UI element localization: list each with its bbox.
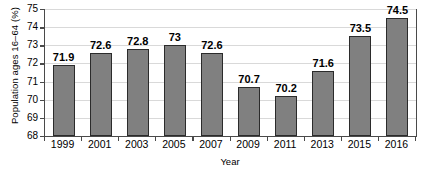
x-tick-label: 2009 [236, 138, 259, 150]
bar-group: 70.7 [231, 9, 268, 136]
bar[interactable] [127, 49, 149, 136]
x-tick-label: 2003 [125, 138, 148, 150]
y-tick-label: 71 [14, 76, 38, 87]
y-tick-mark [40, 100, 44, 101]
x-tick-label: 2016 [385, 138, 408, 150]
x-tick-label: 2013 [311, 138, 334, 150]
x-tick-mark [155, 136, 156, 141]
bar-group: 72.8 [119, 9, 156, 136]
x-tick-mark [81, 136, 82, 141]
bar[interactable] [53, 65, 75, 136]
bar-group: 71.6 [305, 9, 342, 136]
y-tick-label: 68 [14, 130, 38, 141]
bar[interactable] [312, 71, 334, 136]
plot-area: 71.972.672.87372.670.770.271.673.574.5 [44, 9, 417, 137]
bar-value-label: 72.6 [201, 39, 222, 51]
y-tick-label: 70 [14, 94, 38, 105]
bar[interactable] [238, 87, 260, 136]
bar[interactable] [386, 18, 408, 136]
bar-group: 73 [156, 9, 193, 136]
x-tick-label: 2015 [348, 138, 371, 150]
x-tick-mark [118, 136, 119, 141]
bar-value-label: 73.5 [350, 22, 371, 34]
x-tick-mark [415, 136, 416, 141]
bar-value-label: 71.9 [53, 51, 74, 63]
bar[interactable] [201, 53, 223, 136]
y-tick-mark [40, 118, 44, 119]
y-tick-label: 72 [14, 57, 38, 68]
bar-chart: Population ages 16–64 (%) 71.972.672.873… [0, 0, 424, 173]
x-tick-mark [304, 136, 305, 141]
bar-series: 71.972.672.87372.670.770.271.673.574.5 [45, 9, 416, 136]
bar-value-label: 72.8 [127, 35, 148, 47]
bar-group: 70.2 [268, 9, 305, 136]
y-tick-mark [40, 9, 44, 10]
x-tick-mark [341, 136, 342, 141]
bar[interactable] [275, 96, 297, 136]
y-tick-label: 69 [14, 112, 38, 123]
bar[interactable] [164, 45, 186, 136]
bar-value-label: 72.6 [90, 39, 111, 51]
y-tick-label: 75 [14, 3, 38, 14]
bar-value-label: 74.5 [387, 4, 408, 16]
bar[interactable] [90, 53, 112, 136]
y-tick-mark [40, 82, 44, 83]
x-tick-mark [267, 136, 268, 141]
bar-group: 72.6 [82, 9, 119, 136]
bar-group: 72.6 [193, 9, 230, 136]
y-tick-mark [40, 63, 44, 64]
bar-value-label: 70.2 [275, 82, 296, 94]
bar[interactable] [349, 36, 371, 136]
y-tick-mark [40, 27, 44, 28]
x-tick-mark [230, 136, 231, 141]
x-tick-mark [44, 136, 45, 141]
y-tick-label: 73 [14, 39, 38, 50]
x-tick-label: 2007 [199, 138, 222, 150]
y-tick-label: 74 [14, 21, 38, 32]
x-tick-label: 2005 [162, 138, 185, 150]
x-tick-label: 2011 [274, 138, 297, 150]
x-tick-label: 2001 [88, 138, 111, 150]
x-tick-mark [378, 136, 379, 141]
x-axis-title: Year [44, 156, 416, 167]
y-tick-mark [40, 45, 44, 46]
x-tick-mark [192, 136, 193, 141]
bar-value-label: 70.7 [238, 73, 259, 85]
bar-value-label: 73 [169, 31, 181, 43]
bar-group: 73.5 [342, 9, 379, 136]
bar-group: 71.9 [45, 9, 82, 136]
bar-value-label: 71.6 [313, 57, 334, 69]
bar-group: 74.5 [379, 9, 416, 136]
x-tick-label: 1999 [51, 138, 74, 150]
